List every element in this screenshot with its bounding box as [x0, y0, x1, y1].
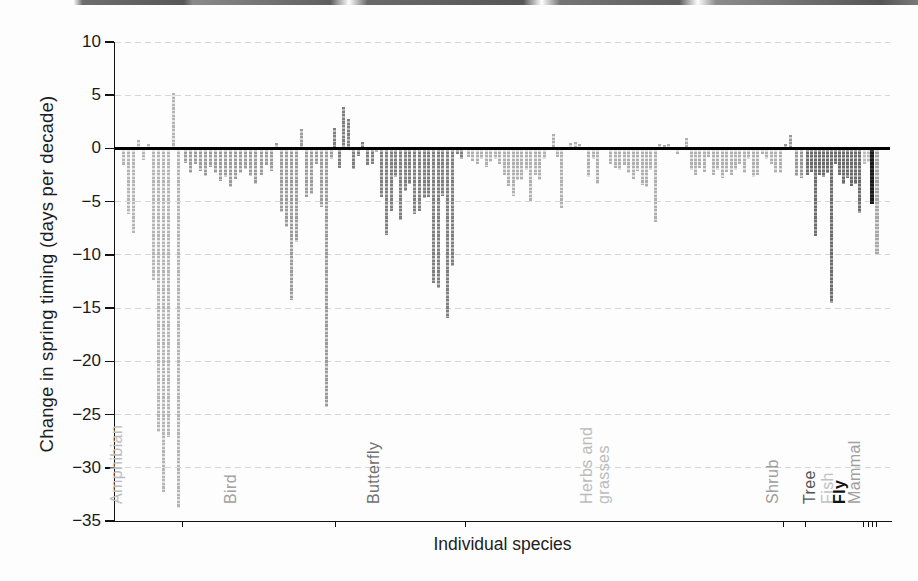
x-axis-title: Individual species: [115, 534, 890, 555]
bar: [543, 148, 546, 159]
group-divider-tick: [863, 521, 864, 527]
bar: [830, 148, 833, 302]
bar: [204, 148, 207, 176]
bar: [280, 148, 283, 212]
bar: [498, 148, 501, 164]
group-label-line: Herbs and: [578, 427, 595, 504]
bar: [618, 148, 621, 169]
bar: [814, 148, 817, 235]
bar: [556, 148, 559, 157]
bar: [822, 148, 825, 177]
gridline: [115, 361, 890, 362]
group-label-amphibian: Amphibian: [108, 425, 125, 504]
y-axis-tick: [105, 414, 114, 416]
bar: [765, 148, 768, 159]
bar: [712, 148, 715, 175]
bar: [189, 148, 192, 172]
bar: [698, 148, 701, 167]
bar: [394, 148, 397, 177]
bar: [310, 148, 313, 194]
y-axis-tick: [105, 41, 114, 43]
bar: [199, 148, 202, 170]
group-label-line: Mammal: [846, 440, 863, 504]
bar: [747, 148, 750, 159]
bar: [142, 148, 145, 160]
bar: [756, 148, 759, 175]
group-label-shrub: Shrub: [764, 459, 781, 504]
group-divider-tick: [335, 521, 336, 527]
bar: [846, 148, 849, 178]
bar: [244, 148, 247, 168]
bar: [725, 148, 728, 171]
bar: [441, 148, 444, 196]
bar: [338, 148, 341, 167]
bar: [534, 148, 537, 175]
group-label-line: grasses: [595, 427, 612, 504]
bar: [529, 148, 532, 201]
bar: [596, 148, 599, 183]
bar: [858, 148, 861, 213]
bar: [399, 148, 402, 219]
bar: [738, 148, 741, 164]
bar: [485, 148, 488, 166]
bar: [730, 148, 733, 175]
bar: [649, 148, 652, 169]
gridline: [115, 308, 890, 309]
bar: [560, 148, 563, 208]
bar: [614, 148, 617, 167]
group-label-line: Amphibian: [108, 425, 125, 504]
group-label-bird: Bird: [222, 474, 239, 504]
bar: [229, 148, 232, 186]
y-tick-label: −25: [41, 405, 101, 425]
bar: [875, 148, 879, 253]
bar: [333, 128, 336, 148]
bar: [460, 148, 463, 159]
figure: Change in spring timing (days per decade…: [0, 0, 918, 581]
bar: [451, 148, 454, 265]
bar: [330, 148, 333, 159]
bar: [305, 148, 308, 197]
bar: [480, 148, 483, 159]
bar: [177, 148, 180, 508]
bar: [184, 148, 187, 163]
bar: [249, 148, 252, 176]
bar: [239, 148, 242, 172]
bar: [315, 148, 318, 164]
bar: [320, 148, 323, 207]
bar: [806, 148, 809, 175]
bar: [516, 148, 519, 180]
gridline: [115, 95, 890, 96]
bar: [471, 148, 474, 161]
group-label-mammal: Mammal: [846, 440, 863, 504]
bar: [779, 148, 782, 172]
scan-edge-artifact: [0, 0, 918, 5]
group-label-fly: Fly: [831, 480, 848, 504]
bar: [476, 148, 479, 164]
bar: [690, 148, 693, 169]
group-divider-tick: [182, 521, 183, 527]
bar: [623, 148, 626, 165]
bar: [342, 107, 345, 149]
bar: [826, 148, 829, 172]
y-axis-tick: [105, 201, 114, 203]
y-tick-label: −30: [41, 458, 101, 478]
y-axis-tick: [105, 254, 114, 256]
bar: [641, 148, 644, 184]
group-label-butterfly: Butterfly: [365, 442, 382, 504]
y-axis-tick: [105, 307, 114, 309]
bar: [538, 148, 541, 180]
bar: [636, 148, 639, 170]
group-label-herbs-and-grasses: Herbs andgrasses: [578, 427, 612, 504]
bar: [219, 148, 222, 181]
bar: [694, 148, 697, 175]
group-divider-tick: [783, 521, 784, 527]
bar: [770, 148, 773, 164]
bar: [774, 148, 777, 172]
bar: [194, 148, 197, 164]
x-axis-line: [114, 521, 892, 523]
bar: [209, 148, 212, 166]
group-divider-tick: [465, 521, 466, 527]
gridline: [115, 414, 890, 415]
bar: [152, 148, 155, 280]
bar: [703, 148, 706, 171]
